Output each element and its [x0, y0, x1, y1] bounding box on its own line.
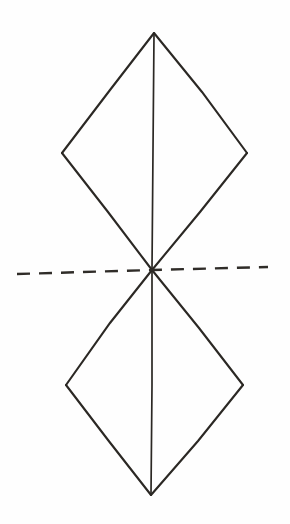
figure-root [0, 0, 290, 524]
vertical-axis-lower-segment [151, 271, 152, 494]
diagram-canvas [0, 0, 290, 524]
